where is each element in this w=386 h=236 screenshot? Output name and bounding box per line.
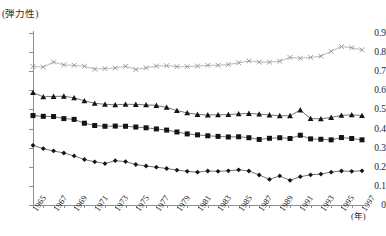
data-point-series-diamond: [349, 169, 354, 174]
data-point-series-diamond: [298, 174, 303, 179]
data-point-series-diamond: [144, 164, 149, 169]
data-point-series-diamond: [318, 172, 323, 177]
data-point-series-square: [318, 137, 323, 142]
data-point-series-diamond: [51, 149, 56, 154]
data-point-series-square: [102, 124, 107, 129]
data-point-series-diamond: [247, 169, 252, 174]
data-point-series-square: [360, 137, 365, 142]
data-point-series-diamond: [175, 168, 180, 173]
data-point-series-square: [257, 137, 262, 142]
data-point-series-square: [288, 136, 293, 141]
data-point-series-triangle: [30, 90, 36, 95]
data-point-series-square: [61, 116, 66, 121]
chart-root: (弾力性) 0.90.80.70.60.50.40.30.20.10 19651…: [0, 0, 386, 236]
data-point-series-square: [349, 136, 354, 141]
data-point-series-square: [72, 117, 77, 122]
data-point-series-diamond: [216, 169, 221, 174]
data-point-series-diamond: [113, 158, 118, 163]
data-point-series-square: [144, 125, 149, 130]
data-point-series-diamond: [133, 162, 138, 167]
data-point-series-square: [51, 114, 56, 119]
data-point-series-triangle: [82, 98, 88, 103]
data-point-series-diamond: [339, 169, 344, 174]
data-point-series-square: [92, 123, 97, 128]
data-point-series-square: [216, 134, 221, 139]
data-point-series-diamond: [195, 170, 200, 175]
data-point-series-triangle: [297, 107, 303, 112]
data-point-series-square: [277, 135, 282, 140]
data-point-series-diamond: [154, 165, 159, 170]
data-point-series-square: [308, 136, 313, 141]
data-point-series-square: [123, 124, 128, 129]
data-point-series-diamond: [257, 173, 262, 178]
data-point-series-square: [174, 129, 179, 134]
data-point-series-diamond: [236, 167, 241, 172]
data-point-series-square: [41, 114, 46, 119]
series-layer: [0, 0, 386, 236]
data-point-series-square: [298, 133, 303, 138]
data-point-series-diamond: [103, 161, 108, 166]
data-point-series-square: [195, 132, 200, 137]
data-point-series-diamond: [92, 159, 97, 164]
data-point-series-square: [133, 125, 138, 130]
data-point-series-diamond: [360, 168, 365, 173]
data-point-series-x: [329, 49, 334, 54]
data-point-series-diamond: [123, 159, 128, 164]
data-point-series-diamond: [82, 157, 87, 162]
data-point-series-diamond: [329, 170, 334, 175]
data-point-series-diamond: [205, 169, 210, 174]
data-point-series-diamond: [31, 143, 36, 148]
data-point-series-square: [82, 121, 87, 126]
data-point-series-x: [51, 60, 56, 65]
data-point-series-diamond: [185, 169, 190, 174]
data-point-series-square: [164, 128, 169, 133]
data-point-series-diamond: [288, 178, 293, 183]
data-point-series-diamond: [72, 153, 77, 158]
data-point-series-triangle: [174, 108, 180, 113]
data-point-series-diamond: [308, 172, 313, 177]
data-point-series-square: [205, 133, 210, 138]
data-point-series-diamond: [164, 166, 169, 171]
data-point-series-square: [236, 134, 241, 139]
data-point-series-square: [226, 134, 231, 139]
data-point-series-diamond: [226, 168, 231, 173]
data-point-series-diamond: [41, 146, 46, 151]
data-point-series-square: [31, 113, 36, 118]
data-point-series-square: [267, 136, 272, 141]
data-point-series-diamond: [267, 177, 272, 182]
data-point-series-square: [329, 137, 334, 142]
data-point-series-square: [154, 126, 159, 131]
data-point-series-square: [185, 131, 190, 136]
data-point-series-diamond: [61, 151, 66, 156]
data-point-series-square: [339, 135, 344, 140]
data-point-series-diamond: [277, 174, 282, 179]
data-point-series-square: [246, 135, 251, 140]
data-point-series-square: [113, 124, 118, 129]
